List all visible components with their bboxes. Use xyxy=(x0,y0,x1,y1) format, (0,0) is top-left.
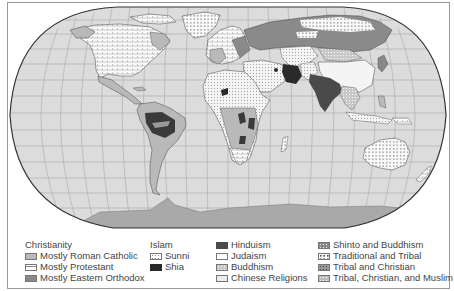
world-religions-map xyxy=(0,0,454,291)
